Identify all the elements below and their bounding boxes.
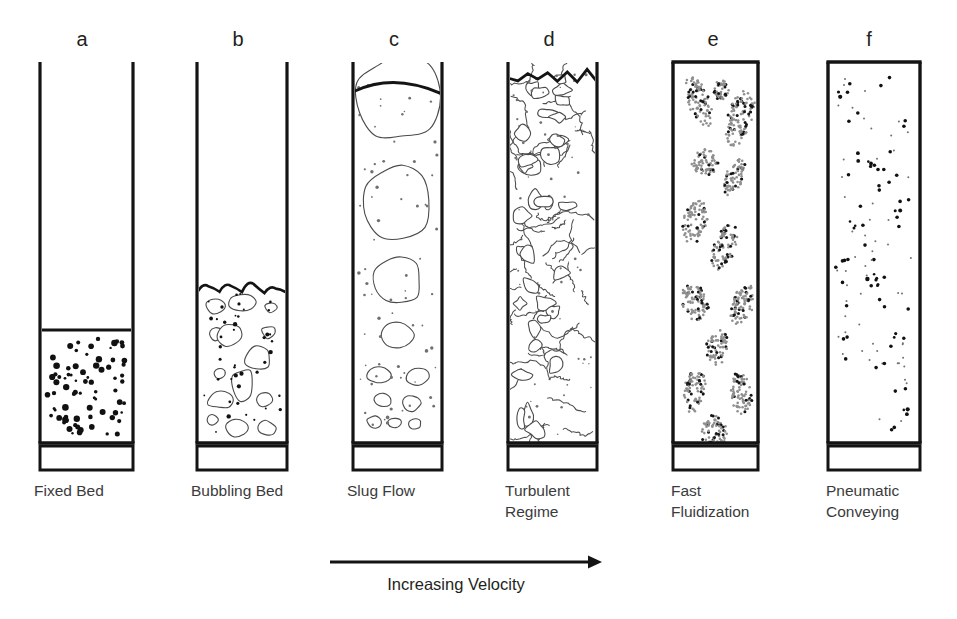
particle: [203, 395, 205, 397]
cluster-particle: [736, 181, 739, 184]
cluster-particle: [705, 169, 708, 172]
cluster-particle: [719, 346, 722, 349]
cluster-particle: [704, 101, 707, 104]
cluster-particle: [746, 408, 749, 411]
cluster-particle: [731, 243, 734, 246]
particle: [587, 213, 590, 216]
cluster-particle: [722, 232, 725, 235]
cluster-particle: [737, 312, 740, 315]
cluster-particle: [694, 410, 697, 413]
cluster-particle: [725, 229, 728, 232]
cluster-particle: [733, 124, 736, 127]
particle: [219, 345, 222, 348]
cluster-particle: [720, 342, 723, 345]
cluster-particle: [735, 405, 738, 408]
cluster-particle: [736, 302, 739, 305]
particle: [390, 407, 393, 410]
cluster-particle: [727, 130, 730, 133]
particle: [63, 384, 69, 390]
cluster-particle: [724, 430, 727, 433]
cluster-particle: [743, 93, 746, 96]
particle: [431, 293, 433, 295]
particle: [878, 298, 882, 302]
particle: [834, 265, 838, 269]
cluster-particle: [716, 264, 719, 267]
cluster-particle: [723, 227, 726, 230]
particle: [842, 337, 846, 341]
particle: [861, 350, 863, 352]
cluster-particle: [685, 82, 688, 85]
cluster-particle: [701, 100, 704, 103]
cluster-particle: [740, 397, 743, 400]
panel-caption-d: Turbulent: [505, 482, 571, 499]
particle: [268, 350, 272, 354]
particle: [236, 402, 239, 405]
particle: [360, 379, 362, 381]
cluster-particle: [706, 354, 709, 357]
cluster-particle: [702, 295, 705, 298]
particle: [841, 176, 843, 178]
cluster-particle: [691, 213, 694, 216]
particle: [560, 87, 561, 88]
particle: [534, 383, 536, 385]
particle: [526, 111, 528, 113]
cluster-particle: [704, 120, 707, 123]
cluster-particle: [682, 306, 685, 309]
cluster-particle: [696, 375, 699, 378]
particle: [563, 196, 565, 198]
particle: [219, 358, 222, 361]
particle: [838, 95, 842, 99]
particle: [864, 90, 866, 92]
cluster-particle: [742, 90, 745, 93]
cluster-particle: [740, 377, 743, 380]
cluster-particle: [741, 160, 744, 163]
cluster-particle: [742, 118, 745, 121]
particle: [878, 188, 882, 192]
cluster-particle: [700, 120, 703, 123]
particle: [579, 269, 582, 272]
cluster-particle: [732, 386, 735, 389]
particle: [89, 424, 95, 430]
cluster-particle: [737, 170, 740, 173]
cluster-particle: [709, 358, 712, 361]
cluster-particle: [730, 307, 733, 310]
cluster-particle: [686, 208, 689, 211]
cluster-particle: [714, 162, 717, 165]
particle: [372, 424, 374, 426]
particle: [416, 204, 419, 207]
cluster-particle: [722, 433, 725, 436]
cluster-particle: [740, 393, 743, 396]
particle: [515, 362, 517, 364]
cluster-particle: [698, 231, 701, 234]
cluster-particle: [732, 235, 735, 238]
particle: [77, 430, 83, 436]
cluster-particle: [685, 236, 688, 239]
particle: [365, 365, 367, 367]
particle: [883, 305, 887, 309]
particle: [89, 380, 94, 385]
particle: [879, 418, 881, 420]
particle: [53, 379, 59, 385]
particle: [73, 363, 79, 369]
cluster-particle: [736, 100, 739, 103]
particle: [73, 390, 78, 395]
particle: [894, 332, 897, 335]
particle: [847, 173, 851, 177]
cluster-particle: [715, 415, 718, 418]
cluster-particle: [703, 104, 706, 107]
particle: [237, 384, 241, 388]
particle: [57, 375, 61, 379]
cluster-particle: [741, 97, 744, 100]
particle: [856, 151, 860, 155]
cluster-particle: [691, 78, 694, 81]
cluster-particle: [731, 188, 734, 191]
cluster-particle: [750, 394, 753, 397]
particle: [518, 209, 519, 210]
particle: [902, 124, 906, 128]
particle: [844, 78, 846, 80]
cluster-particle: [712, 154, 715, 157]
particle: [566, 143, 568, 145]
cluster-particle: [743, 378, 746, 381]
cluster-particle: [706, 109, 709, 112]
cluster-particle: [688, 103, 691, 106]
